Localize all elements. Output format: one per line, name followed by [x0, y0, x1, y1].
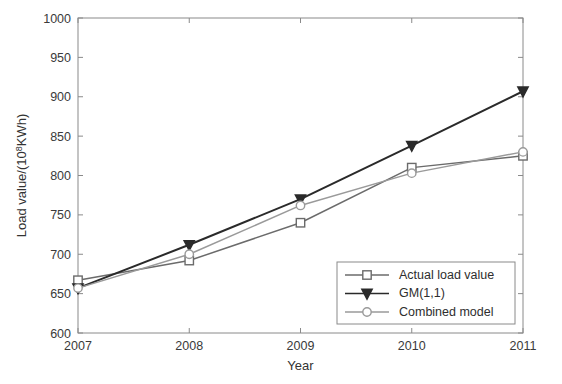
data-point-marker: [74, 284, 82, 292]
legend-label: Actual load value: [399, 268, 494, 282]
y-tick-label: 1000: [43, 12, 71, 26]
y-tick-label: 950: [50, 51, 71, 65]
y-tick-label: 700: [50, 248, 71, 262]
x-tick-label: 2011: [510, 339, 537, 353]
y-tick-label: 900: [50, 90, 71, 104]
legend-label: Combined model: [399, 305, 494, 319]
data-point-marker: [408, 169, 416, 177]
data-point-marker: [519, 148, 527, 156]
data-point-marker: [363, 271, 371, 279]
y-tick-label: 750: [50, 208, 71, 222]
data-point-marker: [185, 250, 193, 258]
data-point-marker: [74, 276, 82, 284]
chart-legend[interactable]: Actual load valueGM(1,1)Combined model: [337, 262, 515, 324]
y-tick-label: 850: [50, 130, 71, 144]
legend-label: GM(1,1): [399, 286, 445, 300]
data-point-marker: [296, 201, 304, 209]
series-line: [78, 91, 523, 288]
data-point-marker: [363, 308, 371, 316]
x-tick-label: 2010: [398, 339, 426, 353]
x-tick-label: 2008: [175, 339, 203, 353]
data-point-marker: [296, 219, 304, 227]
y-tick-label: 800: [50, 169, 71, 183]
y-axis-title: Load value/(108KWh): [14, 114, 29, 238]
line-chart: 6006507007508008509009501000 20072008200…: [0, 0, 562, 384]
x-axis-title: Year: [287, 358, 314, 373]
x-tick-label: 2007: [64, 339, 92, 353]
figure-canvas: 6006507007508008509009501000 20072008200…: [0, 0, 562, 384]
x-tick-label: 2009: [287, 339, 315, 353]
y-tick-label: 650: [50, 287, 71, 301]
